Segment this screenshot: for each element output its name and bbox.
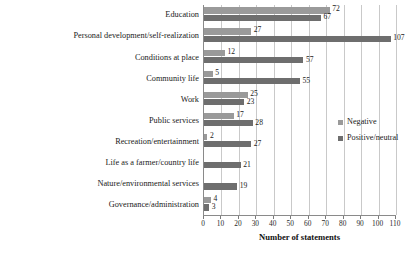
plot-area: 726727107125755525231728227211943 (203, 5, 396, 216)
x-tick-label: 90 (356, 220, 363, 227)
x-tick-label: 40 (269, 220, 276, 227)
bar-neg (204, 92, 248, 98)
bar-group: 555 (204, 68, 396, 89)
bar-group: 2523 (204, 89, 396, 110)
legend-item[interactable]: Positive/neutral (338, 133, 418, 143)
x-tick-label: 50 (287, 220, 294, 227)
bar-chart: EducationPersonal development/self-reali… (0, 0, 418, 265)
category-axis-labels: EducationPersonal development/self-reali… (0, 5, 203, 216)
bar-pos (204, 15, 321, 21)
x-tick-label: 60 (304, 220, 311, 227)
bar-value-label: 27 (254, 26, 262, 34)
bar-group: 43 (204, 195, 396, 216)
legend-swatch-icon (338, 136, 343, 141)
x-tick-label: 0 (201, 220, 205, 227)
bar-neg (204, 7, 330, 13)
category-label: Personal development/self-realization (0, 32, 199, 40)
x-tick-label: 100 (372, 220, 383, 227)
bar-value-label: 27 (254, 140, 262, 148)
category-label: Governance/administration (0, 201, 199, 209)
bar-pos (204, 204, 209, 210)
bar-value-label: 17 (236, 111, 244, 119)
bar-value-label: 55 (303, 77, 311, 85)
bar-group: 1257 (204, 47, 396, 68)
bar-neg (204, 134, 207, 140)
category-label: Work (0, 96, 199, 104)
category-label: Education (0, 11, 199, 19)
category-label: Community life (0, 75, 199, 83)
category-label: Recreation/entertainment (0, 138, 199, 146)
legend-item[interactable]: Negative (338, 117, 418, 127)
bar-pos (204, 78, 300, 84)
bar-group: 7267 (204, 5, 396, 26)
bar-value-label: 67 (323, 13, 331, 21)
x-axis-title: Number of statements (203, 232, 396, 242)
bar-pos (204, 36, 391, 42)
bar-neg (204, 113, 234, 119)
bar-value-label: 23 (247, 98, 255, 106)
bar-value-label: 21 (243, 161, 251, 169)
bar-value-label: 107 (393, 34, 404, 42)
x-tick-label: 20 (234, 220, 241, 227)
x-tick-label: 80 (339, 220, 346, 227)
legend-label: Positive/neutral (347, 134, 398, 142)
x-tick-label: 30 (252, 220, 259, 227)
bar-pos (204, 162, 241, 168)
bar-neg (204, 197, 211, 203)
bar-value-label: 19 (240, 182, 248, 190)
category-label: Public services (0, 117, 199, 125)
bar-pos (204, 57, 303, 63)
bar-neg (204, 50, 225, 56)
bar-value-label: 5 (215, 69, 219, 77)
bar-group: 19 (204, 174, 396, 195)
x-tick-label: 70 (321, 220, 328, 227)
bar-neg (204, 71, 213, 77)
category-label: Life as a farmer/country life (0, 159, 199, 167)
bar-pos (204, 120, 253, 126)
bar-pos (204, 141, 251, 147)
bar-group: 27107 (204, 26, 396, 47)
bar-pos (204, 183, 237, 189)
bar-value-label: 12 (227, 48, 235, 56)
chart-legend: NegativePositive/neutral (338, 117, 418, 149)
category-label: Conditions at place (0, 54, 199, 62)
bar-value-label: 3 (212, 203, 216, 211)
bar-value-label: 2 (210, 132, 214, 140)
x-tick-label: 110 (390, 220, 401, 227)
bar-group: 21 (204, 153, 396, 174)
bar-value-label: 28 (255, 119, 263, 127)
x-tick-label: 10 (217, 220, 224, 227)
category-label: Nature/environmental services (0, 180, 199, 188)
legend-label: Negative (347, 118, 377, 126)
bar-neg (204, 28, 251, 34)
bar-pos (204, 99, 244, 105)
legend-swatch-icon (338, 120, 343, 125)
bar-value-label: 72 (332, 5, 340, 13)
bar-value-label: 57 (306, 56, 314, 64)
